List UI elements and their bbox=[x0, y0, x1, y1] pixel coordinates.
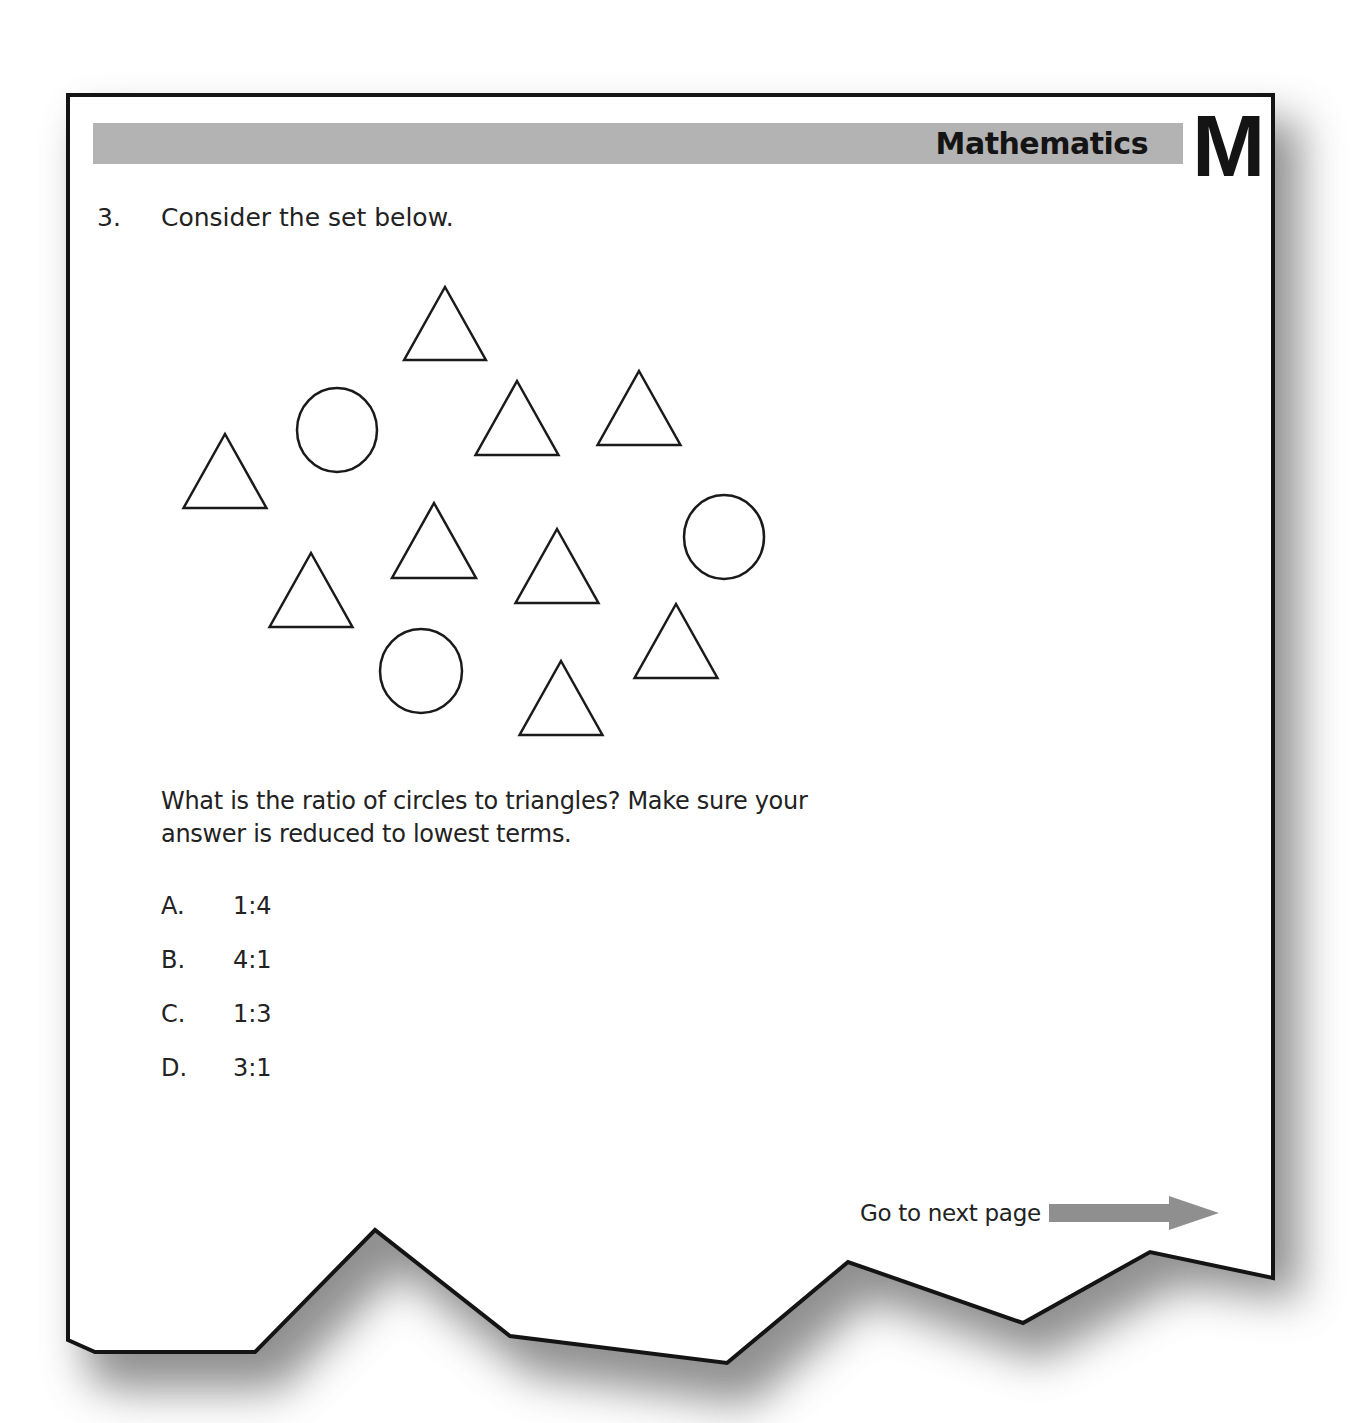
triangle-shape bbox=[516, 529, 599, 603]
next-page-link[interactable]: Go to next page bbox=[860, 1196, 1219, 1230]
triangle-shape bbox=[184, 434, 267, 508]
triangle-shape bbox=[520, 661, 603, 735]
subject-letter-badge: M bbox=[1192, 102, 1263, 190]
choice-value: 1:4 bbox=[233, 892, 272, 920]
triangle-shape bbox=[598, 371, 681, 445]
choice-a[interactable]: A. 1:4 bbox=[161, 892, 272, 946]
circle-shape bbox=[380, 629, 462, 713]
answer-choices: A. 1:4 B. 4:1 C. 1:3 D. 3:1 bbox=[161, 892, 272, 1108]
choice-letter: C. bbox=[161, 1000, 233, 1028]
choice-letter: D. bbox=[161, 1054, 233, 1082]
choice-c[interactable]: C. 1:3 bbox=[161, 1000, 272, 1054]
choice-value: 1:3 bbox=[233, 1000, 272, 1028]
triangle-shape bbox=[476, 381, 559, 455]
triangle-shape bbox=[270, 553, 353, 627]
right-arrow-icon bbox=[1049, 1196, 1219, 1230]
circle-shape bbox=[684, 495, 764, 579]
choice-letter: B. bbox=[161, 946, 233, 974]
paper-sheet bbox=[68, 95, 1273, 1363]
worksheet-page: Mathematics M 3. Consider the set below.… bbox=[0, 0, 1350, 1423]
question-prompt: What is the ratio of circles to triangle… bbox=[161, 785, 881, 851]
choice-d[interactable]: D. 3:1 bbox=[161, 1054, 272, 1108]
next-page-label: Go to next page bbox=[860, 1200, 1041, 1226]
triangle-shape bbox=[404, 287, 486, 360]
circle-shape bbox=[297, 388, 377, 472]
question-intro: Consider the set below. bbox=[161, 203, 454, 232]
choice-letter: A. bbox=[161, 892, 233, 920]
subject-title: Mathematics bbox=[936, 124, 1148, 164]
choice-value: 4:1 bbox=[233, 946, 272, 974]
triangle-shape bbox=[635, 604, 718, 678]
question-number: 3. bbox=[97, 203, 121, 232]
triangle-shape bbox=[392, 503, 476, 578]
choice-b[interactable]: B. 4:1 bbox=[161, 946, 272, 1000]
choice-value: 3:1 bbox=[233, 1054, 272, 1082]
